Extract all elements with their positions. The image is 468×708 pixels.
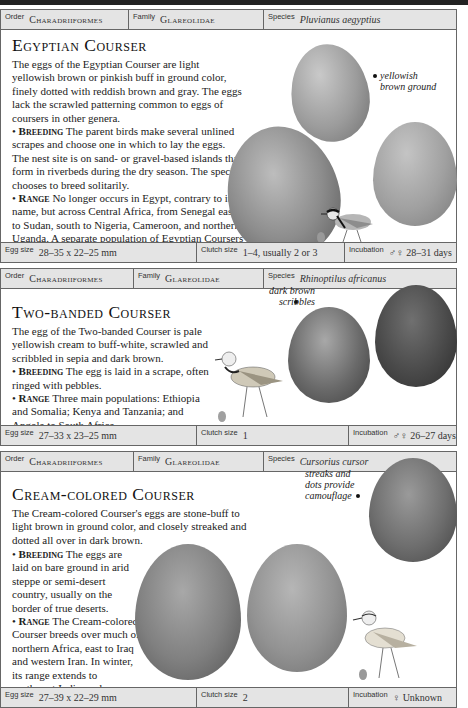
- species-title: Egyptian Courser: [12, 35, 147, 56]
- actual-size-egg-icon: [359, 669, 367, 680]
- clutch-size-cell: Clutch size2: [197, 688, 349, 707]
- egg-size-cell: Egg size27–39 x 22–29 mm: [1, 688, 197, 707]
- egg-image-top-right: [369, 458, 457, 562]
- egg-image-right: [373, 122, 457, 226]
- egg-image-right: [375, 285, 457, 387]
- species-title: Cream-colored Courser: [12, 484, 195, 505]
- top-rule: [0, 0, 468, 5]
- annotation-pointer-dot: [356, 494, 360, 498]
- annotation-pointer-dot: [294, 300, 298, 304]
- species-description: The egg of the Two-banded Courser is pal…: [12, 325, 217, 432]
- family-cell: FamilyGlareolidae: [134, 269, 264, 288]
- family-cell: FamilyGlareolidae: [129, 10, 264, 29]
- egg-image-left: [135, 544, 241, 680]
- entry-two-banded-courser: OrderCharadriiformes FamilyGlareolidae S…: [0, 268, 457, 446]
- entry-cream-colored-courser: OrderCharadriiformes FamilyGlareolidae S…: [0, 451, 457, 708]
- taxonomy-header: OrderCharadriiformes FamilyGlareolidae S…: [1, 10, 456, 30]
- egg-facts-footer: Egg size27–33 x 23–25 mm Clutch size1 In…: [1, 425, 456, 445]
- species-cell: SpeciesPluvianus aegyptius: [264, 10, 456, 29]
- order-cell: OrderCharadriiformes: [1, 269, 134, 288]
- species-description: The Cream-colored Courser's eggs are sto…: [12, 507, 247, 547]
- actual-size-egg-icon: [218, 411, 226, 422]
- egg-size-cell: Egg size28–35 x 22–25 mm: [1, 243, 197, 262]
- egg-image-middle: [247, 544, 347, 672]
- clutch-size-cell: Clutch size1–4, usually 2 or 3: [197, 243, 345, 262]
- egg-facts-footer: Egg size28–35 x 22–25 mm Clutch size1–4,…: [1, 242, 456, 262]
- egg-facts-footer: Egg size27–39 x 22–29 mm Clutch size2 In…: [1, 687, 456, 707]
- species-details: • Breeding The eggs are laid on bare gro…: [12, 548, 140, 708]
- bird-illustration: [317, 200, 379, 246]
- incubation-cell: Incubation♀ Unknown: [349, 688, 456, 707]
- annotation-pointer-dot: [373, 74, 377, 78]
- incubation-cell: Incubation♂♀ 26–27 days: [349, 426, 456, 445]
- incubation-cell: Incubation♂♀ 28–31 days: [345, 243, 456, 262]
- clutch-size-cell: Clutch size1: [197, 426, 349, 445]
- egg-annotation: yellowish brown ground: [380, 70, 440, 92]
- egg-image-left: [288, 307, 370, 403]
- species-description: The eggs of the Egyptian Courser are lig…: [12, 58, 244, 259]
- taxonomy-header: OrderCharadriiformes FamilyGlareolidae S…: [1, 269, 456, 289]
- order-cell: OrderCharadriiformes: [1, 452, 134, 471]
- entry-egyptian-courser: OrderCharadriiformes FamilyGlareolidae S…: [0, 9, 457, 263]
- egg-annotation: dark brown scribbles: [259, 285, 315, 307]
- species-title: Two-banded Courser: [12, 302, 171, 323]
- order-cell: OrderCharadriiformes: [1, 10, 129, 29]
- family-cell: FamilyGlareolidae: [134, 452, 264, 471]
- egg-size-cell: Egg size27–33 x 23–25 mm: [1, 426, 197, 445]
